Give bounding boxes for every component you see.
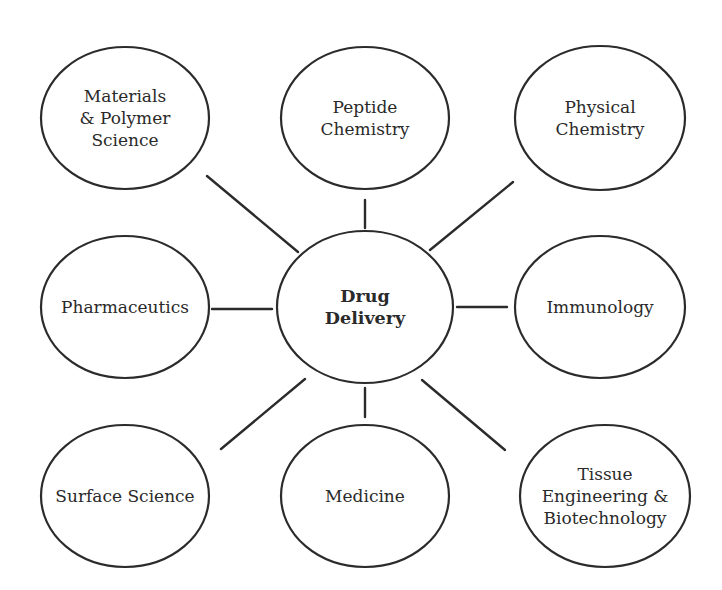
node-label: Engineering &: [542, 486, 669, 506]
node-pharmaceutics: Pharmaceutics: [41, 236, 209, 378]
node-ellipse: [277, 231, 453, 383]
node-label: Chemistry: [321, 119, 410, 139]
connector-surface-science: [221, 379, 305, 449]
connector-physical-chemistry: [430, 182, 513, 250]
node-ellipse: [515, 46, 685, 190]
node-physical-chemistry: PhysicalChemistry: [515, 46, 685, 190]
node-materials-polymer-science: Materials& PolymerScience: [41, 47, 209, 189]
node-label: & Polymer: [80, 108, 172, 128]
node-label: Chemistry: [556, 119, 645, 139]
connector-materials-polymer-science: [207, 176, 298, 252]
node-label: Science: [91, 130, 158, 150]
node-label: Medicine: [325, 486, 405, 506]
node-label: Biotechnology: [544, 508, 667, 528]
node-label: Drug: [340, 286, 389, 306]
node-label: Immunology: [546, 297, 654, 317]
node-peptide-chemistry: PeptideChemistry: [281, 47, 449, 189]
node-label: Physical: [564, 97, 635, 117]
node-tissue-engineering-biotechnology: TissueEngineering &Biotechnology: [520, 425, 690, 567]
node-medicine: Medicine: [281, 425, 449, 567]
connector-tissue-engineering-biotechnology: [422, 380, 505, 450]
node-surface-science: Surface Science: [41, 425, 209, 567]
node-drug-delivery: DrugDelivery: [277, 231, 453, 383]
node-label: Delivery: [325, 308, 406, 328]
node-ellipse: [281, 47, 449, 189]
node-immunology: Immunology: [515, 236, 685, 378]
node-label: Tissue: [577, 464, 632, 484]
node-label: Pharmaceutics: [61, 297, 189, 317]
node-label: Materials: [84, 86, 166, 106]
drug-delivery-diagram: Materials& PolymerSciencePeptideChemistr…: [0, 0, 722, 590]
node-label: Peptide: [333, 97, 398, 117]
topic-nodes: Materials& PolymerSciencePeptideChemistr…: [41, 46, 690, 567]
node-label: Surface Science: [55, 486, 194, 506]
